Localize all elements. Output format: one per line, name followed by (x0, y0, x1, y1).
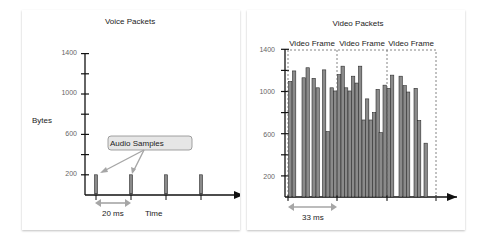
video-bar (316, 88, 319, 197)
video-bar (330, 88, 333, 197)
video-bar (366, 99, 369, 197)
voice-ytick-1400: 1400 (61, 49, 77, 56)
voice-chart-title: Voice Packets (105, 17, 155, 26)
voice-ytick-1000: 1000 (61, 89, 77, 96)
video-bar (391, 75, 394, 197)
video-bar (424, 143, 427, 197)
video-bar (418, 121, 421, 197)
callout-arrow-1 (102, 150, 144, 172)
video-ytick-1000: 1000 (259, 88, 275, 95)
video-x-axis-arrow-icon (447, 193, 457, 201)
video-bar (414, 88, 417, 197)
callout-arrowhead-1-icon (100, 167, 108, 173)
video-chart-svg: Video Packets 1400 1000 600 200 Video Fr… (247, 10, 465, 230)
voice-interval-left-arrow-icon (95, 199, 101, 207)
voice-x-axis-arrow-icon (234, 191, 240, 199)
video-bar (326, 132, 329, 197)
video-interval-right-arrow-icon (331, 203, 337, 211)
video-packets-chart: Video Packets 1400 1000 600 200 Video Fr… (247, 10, 465, 230)
video-bar (399, 76, 402, 197)
video-bar (383, 85, 386, 197)
video-bars (288, 66, 436, 201)
voice-ytick-600: 600 (65, 130, 77, 137)
video-frame-label-3: Video Frame (388, 39, 434, 48)
video-ytick-1400: 1400 (259, 46, 275, 53)
voice-chart-svg: Voice Packets 1400 1000 600 200 Bytes Au… (22, 10, 240, 230)
video-ytick-600: 600 (263, 131, 275, 138)
video-chart-title: Video Packets (333, 19, 384, 28)
voice-y-label: Bytes (32, 116, 52, 125)
video-bar (403, 86, 406, 197)
video-bar (289, 81, 292, 197)
video-bar (312, 78, 315, 197)
video-bar (306, 68, 309, 197)
video-bar (302, 78, 305, 197)
video-bar (345, 88, 348, 197)
video-bar (355, 83, 358, 197)
video-bar (369, 120, 372, 197)
video-interval-label: 33 ms (302, 213, 324, 222)
video-bar (293, 71, 296, 197)
voice-packets-chart: Voice Packets 1400 1000 600 200 Bytes Au… (22, 10, 240, 230)
video-bar (348, 91, 351, 197)
voice-interval-label: 20 ms (102, 209, 124, 218)
video-ytick-200: 200 (263, 173, 275, 180)
video-bar (362, 120, 365, 197)
video-bar (352, 76, 355, 197)
video-bar (387, 88, 390, 197)
video-bar (334, 91, 337, 197)
audio-samples-label: Audio Samples (110, 139, 164, 148)
video-bar (359, 66, 362, 197)
video-bar (323, 70, 326, 197)
video-frame-label-2: Video Frame (339, 39, 385, 48)
voice-ytick-200: 200 (65, 170, 77, 177)
voice-bar (95, 175, 98, 195)
voice-bar (200, 175, 203, 195)
video-interval-left-arrow-icon (288, 203, 294, 211)
video-bar (407, 92, 410, 197)
video-bar (373, 113, 376, 197)
video-frame-label-1: Video Frame (289, 39, 335, 48)
voice-bars (95, 175, 203, 200)
voice-bar (130, 175, 133, 195)
voice-x-label: Time (145, 209, 163, 218)
video-bar (379, 133, 382, 197)
voice-bar (165, 175, 168, 195)
video-bar (341, 66, 344, 197)
video-bar (338, 75, 341, 197)
voice-interval-right-arrow-icon (125, 199, 131, 207)
